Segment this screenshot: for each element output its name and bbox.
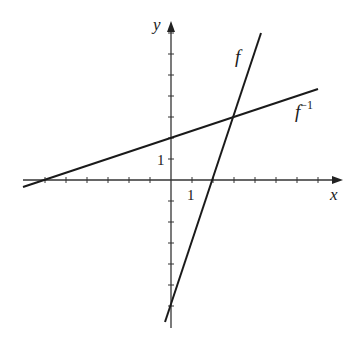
f-inverse-label: f−1 (295, 98, 313, 122)
x-axis-label: x (329, 185, 338, 204)
x-tick-label-1: 1 (187, 187, 195, 203)
f-label: f (235, 46, 243, 67)
axes (23, 21, 343, 328)
function-inverse-plot: y x 1 1 f f−1 (0, 0, 353, 343)
y-tick-label-1: 1 (157, 152, 165, 168)
tick-marks (45, 33, 318, 306)
y-axis-arrow-icon (167, 21, 175, 32)
x-axis-arrow-icon (332, 176, 343, 184)
f-inverse-label-sup: −1 (300, 98, 313, 112)
y-axis-label: y (151, 15, 161, 34)
f-line (165, 33, 261, 322)
